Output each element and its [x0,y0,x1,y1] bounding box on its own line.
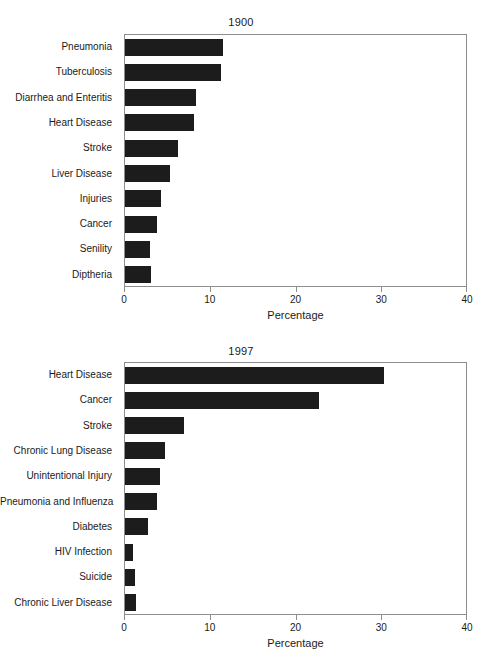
category-label: Cancer [0,211,118,236]
bar-row [125,388,468,412]
chart-1900: 1900 PneumoniaTuberculosisDiarrhea and E… [0,0,482,340]
bar [125,114,194,131]
bar-row [125,565,468,589]
bar-row [125,439,468,463]
bar [125,165,170,182]
bar [125,39,223,56]
category-label: Heart Disease [0,110,118,135]
category-label: Stroke [0,135,118,160]
x-axis-tick [381,287,382,292]
category-label: Heart Disease [0,362,118,387]
x-axis-tick-label: 30 [376,294,387,305]
x-axis-tick [296,287,297,292]
bar [125,594,136,611]
bar [125,140,178,157]
category-label: Cancer [0,387,118,412]
x-axis-title-1997: Percentage [124,637,467,649]
bar-row [125,515,468,539]
category-label: Stroke [0,413,118,438]
bar-row [125,540,468,564]
x-axis-tick-label: 0 [121,622,127,633]
bar-row [125,136,468,160]
bars-container-1900 [125,35,466,286]
x-axis-tick [124,615,125,620]
category-label: Unintentional Injury [0,463,118,488]
x-axis-tick-label: 40 [461,622,472,633]
bar [125,241,150,258]
bar [125,216,157,233]
bar [125,569,135,586]
bar [125,367,384,384]
category-label: Chronic Liver Disease [0,590,118,615]
bar [125,266,151,283]
bar-row [125,212,468,236]
bar-row [125,263,468,287]
x-axis-title-1900: Percentage [124,309,467,321]
category-label: Diarrhea and Enteritis [0,85,118,110]
bar [125,468,160,485]
bar-row [125,111,468,135]
category-label: Chronic Lung Disease [0,438,118,463]
x-axis-tick [466,287,467,292]
bar-row [125,187,468,211]
bar [125,544,133,561]
x-axis-tick [210,615,211,620]
bar-row [125,60,468,84]
bar-row [125,414,468,438]
category-label: Injuries [0,186,118,211]
chart-title-1900: 1900 [0,16,482,28]
category-label: Liver Disease [0,161,118,186]
x-axis-tick [296,615,297,620]
x-axis-tick [466,615,467,620]
bar [125,518,148,535]
plot-area-1900 [124,34,467,287]
bar-row [125,490,468,514]
bar-row [125,237,468,261]
x-axis-tick-label: 20 [290,622,301,633]
category-label: Diabetes [0,514,118,539]
bar [125,493,157,510]
chart-title-1997: 1997 [0,345,482,357]
bar-row [125,86,468,110]
bar-row [125,363,468,387]
bar [125,392,319,409]
x-axis-tick-label: 0 [121,294,127,305]
x-axis-tick [210,287,211,292]
category-label: HIV Infection [0,539,118,564]
x-axis-tick-label: 30 [376,622,387,633]
bar-row [125,35,468,59]
x-axis-tick-label: 10 [204,294,215,305]
category-label: Pneumonia [0,34,118,59]
x-axis-tick [124,287,125,292]
bar [125,64,221,81]
chart-1997: 1997 Heart DiseaseCancerStrokeChronic Lu… [0,329,482,663]
bar [125,190,161,207]
bar [125,417,184,434]
bars-container-1997 [125,363,466,614]
plot-area-1997 [124,362,467,615]
bar-row [125,591,468,615]
x-axis-tick-label: 10 [204,622,215,633]
category-label: Suicide [0,564,118,589]
x-axis-tick [381,615,382,620]
x-axis-tick-label: 40 [461,294,472,305]
category-label: Pneumonia and Influenza [0,489,118,514]
bar [125,89,196,106]
bar [125,442,165,459]
bar-row [125,464,468,488]
x-axis-tick-label: 20 [290,294,301,305]
category-label: Tuberculosis [0,59,118,84]
category-label: Senility [0,236,118,261]
bar-row [125,162,468,186]
category-label: Diptheria [0,262,118,287]
